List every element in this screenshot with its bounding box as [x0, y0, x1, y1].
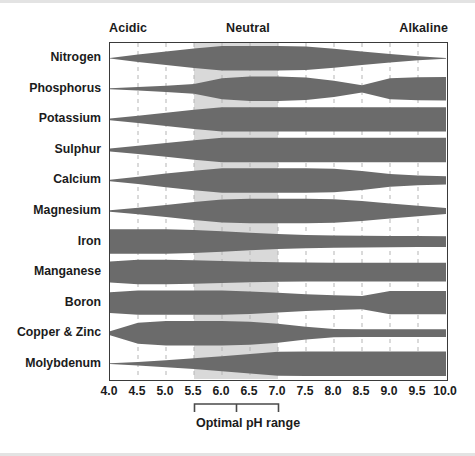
bracket-path: [195, 404, 279, 412]
optimal-range-bracket: [0, 3, 475, 456]
chart-page: Acidic Neutral Alkaline NitrogenPhosphor…: [0, 0, 475, 456]
ph-nutrient-availability-chart: Acidic Neutral Alkaline NitrogenPhosphor…: [0, 3, 475, 456]
optimal-range-caption: Optimal pH range: [196, 416, 300, 430]
